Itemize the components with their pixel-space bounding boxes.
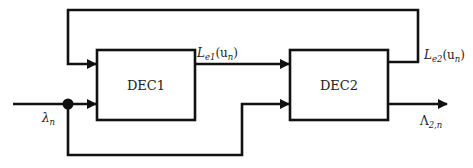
input-path bbox=[13, 99, 96, 110]
turbo-decoder-diagram: DEC1 DEC2 λn Le1(un) Le2(un) Λ2,n bbox=[0, 0, 473, 168]
dec1-label: DEC1 bbox=[127, 78, 165, 93]
dec2-label: DEC2 bbox=[320, 78, 358, 93]
dec2-block: DEC2 bbox=[290, 50, 388, 120]
input-label: λn bbox=[41, 111, 55, 127]
le2-label: Le2(un) bbox=[423, 48, 465, 64]
dec1-block: DEC1 bbox=[97, 50, 195, 120]
le1-label: Le1(un) bbox=[196, 46, 238, 62]
output-label: Λ2,n bbox=[419, 114, 442, 130]
